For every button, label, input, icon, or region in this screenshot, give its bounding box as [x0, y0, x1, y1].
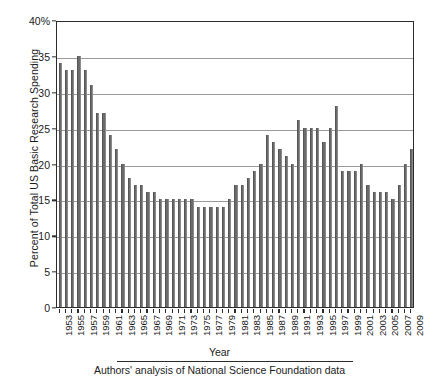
x-tick-label: 1999 [352, 315, 363, 336]
bar [109, 135, 112, 307]
x-tick-mark [398, 309, 399, 313]
bar [140, 185, 143, 307]
x-tick-mark [329, 309, 330, 313]
bar [71, 70, 74, 307]
x-tick-label: 2005 [389, 315, 400, 336]
bar [285, 156, 288, 307]
x-tick-mark [165, 309, 166, 313]
x-tick-label: 1965 [138, 315, 149, 336]
bar [178, 199, 181, 307]
x-tick-mark [410, 309, 411, 313]
bar [228, 199, 231, 307]
x-tick-label: 2007 [402, 315, 413, 336]
x-tick-mark [103, 309, 104, 313]
x-tick-label: 2001 [364, 315, 375, 336]
bar [96, 113, 99, 307]
bar [216, 207, 219, 307]
y-tick-label: 10 [4, 230, 56, 242]
bar [291, 164, 294, 308]
x-tick-label: 1975 [201, 315, 212, 336]
x-tick-mark [347, 309, 348, 313]
bar [322, 142, 325, 307]
bar [84, 70, 87, 307]
x-tick-label: 1989 [289, 315, 300, 336]
x-tick-mark [203, 309, 204, 313]
x-tick-mark [222, 309, 223, 313]
bar [404, 164, 407, 308]
bar [253, 171, 256, 307]
bar [354, 171, 357, 307]
x-tick-mark [266, 309, 267, 313]
bar [146, 192, 149, 307]
bar [90, 85, 93, 307]
bar [385, 192, 388, 307]
x-tick-label: 1959 [100, 315, 111, 336]
bar [303, 128, 306, 307]
x-tick-mark [84, 309, 85, 313]
bar [272, 142, 275, 307]
x-tick-mark [146, 309, 147, 313]
y-axis-ticks: 0510152025303540% [0, 21, 56, 308]
x-tick-label: 1973 [188, 315, 199, 336]
x-tick-mark [366, 309, 367, 313]
bar [197, 207, 200, 307]
x-tick-mark [109, 309, 110, 313]
x-tick-label: 1971 [176, 315, 187, 336]
x-tick-label: 1983 [251, 315, 262, 336]
bar [316, 128, 319, 307]
bar [297, 120, 300, 307]
bar [59, 63, 62, 307]
y-tick-label: 20 [4, 159, 56, 171]
x-tick-mark [178, 309, 179, 313]
bar [259, 164, 262, 308]
x-tick-label: 1955 [75, 315, 86, 336]
x-tick-mark [241, 309, 242, 313]
x-tick-mark [115, 309, 116, 313]
x-tick-mark [190, 309, 191, 313]
x-tick-mark [373, 309, 374, 313]
y-tick-label: 5 [4, 266, 56, 278]
x-tick-mark [404, 309, 405, 313]
bar [391, 199, 394, 307]
x-tick-mark [96, 309, 97, 313]
bar [65, 70, 68, 307]
x-tick-mark [272, 309, 273, 313]
bar [172, 199, 175, 307]
x-tick-label: 1991 [301, 315, 312, 336]
bar [102, 113, 105, 307]
x-tick-mark [77, 309, 78, 313]
x-tick-mark [341, 309, 342, 313]
x-tick-mark [291, 309, 292, 313]
bar [373, 192, 376, 307]
x-tick-label: 1967 [151, 315, 162, 336]
x-tick-mark [172, 309, 173, 313]
bar [190, 199, 193, 307]
x-tick-label: 1977 [213, 315, 224, 336]
x-tick-mark [316, 309, 317, 313]
x-tick-mark [121, 309, 122, 313]
bar [121, 164, 124, 308]
x-tick-label: 1957 [88, 315, 99, 336]
x-tick-label: 1993 [314, 315, 325, 336]
x-tick-mark [140, 309, 141, 313]
x-tick-mark [379, 309, 380, 313]
bar [203, 207, 206, 307]
bar [247, 178, 250, 307]
x-tick-label: 1997 [339, 315, 350, 336]
y-tick-label: 40% [4, 15, 56, 27]
x-tick-mark [59, 309, 60, 313]
x-tick-label: 1985 [264, 315, 275, 336]
x-tick-mark [234, 309, 235, 313]
x-tick-mark [209, 309, 210, 313]
x-tick-mark [90, 309, 91, 313]
x-tick-mark [391, 309, 392, 313]
x-tick-label: 1969 [163, 315, 174, 336]
y-tick-label: 15 [4, 194, 56, 206]
bar [184, 199, 187, 307]
bar [347, 171, 350, 307]
x-tick-mark [65, 309, 66, 313]
bar [115, 149, 118, 307]
x-tick-mark [134, 309, 135, 313]
x-tick-mark [253, 309, 254, 313]
bar [128, 178, 131, 307]
